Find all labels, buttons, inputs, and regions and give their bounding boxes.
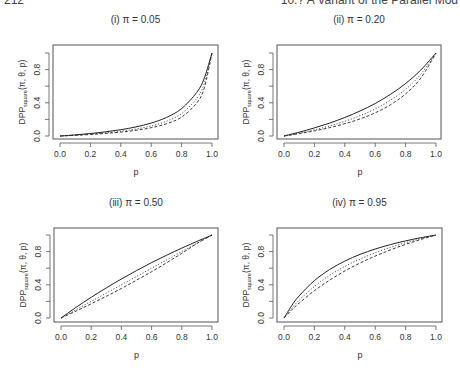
y-axis: 0.00.40.8 — [32, 53, 49, 142]
series-solid-line — [61, 235, 212, 318]
y-tick-label: 0.0 — [256, 312, 266, 324]
y-axis-label: DPPsquare(π, θ, p) — [18, 242, 29, 307]
x-axis: 0.00.20.40.60.81.0 — [54, 143, 218, 159]
x-tick-label: 0.8 — [176, 149, 188, 159]
x-axis: 0.00.20.40.60.81.0 — [55, 326, 218, 342]
x-tick-label: 0.4 — [339, 149, 351, 159]
chart-title: (i) π = 0.05 — [111, 14, 161, 25]
chart-title: (iii) π = 0.50 — [109, 197, 163, 208]
y-axis: 0.00.40.8 — [256, 235, 273, 324]
y-axis-label: DPPsquare(π, θ, p) — [241, 242, 252, 307]
y-tick-label: 0.4 — [32, 97, 42, 109]
x-tick-label: 0.0 — [278, 332, 290, 342]
chart-panel-3: (iii) π = 0.500.00.20.40.60.81.0p0.00.40… — [18, 197, 218, 360]
y-tick-label: 0.4 — [33, 279, 43, 291]
x-axis-label: p — [357, 167, 362, 177]
chart-panel-2: (ii) π = 0.200.00.20.40.60.81.0p0.00.40.… — [241, 14, 442, 177]
y-tick-label: 0.4 — [256, 279, 266, 291]
y-tick-label: 0.8 — [33, 245, 43, 257]
y-tick-label: 0.8 — [256, 63, 266, 75]
chart-panel-4: (iv) π = 0.950.00.20.40.60.81.0p0.00.40.… — [241, 197, 442, 360]
plot-frame — [54, 228, 218, 322]
x-tick-label: 1.0 — [430, 149, 442, 159]
y-tick-label: 0.0 — [256, 130, 266, 142]
x-axis: 0.00.20.40.60.81.0 — [278, 143, 442, 159]
chart-title: (iv) π = 0.95 — [332, 197, 387, 208]
y-axis: 0.00.40.8 — [33, 235, 50, 324]
y-tick-label: 0.8 — [256, 245, 266, 257]
x-axis-label: p — [357, 350, 362, 360]
chart-title: (ii) π = 0.20 — [333, 14, 385, 25]
series-dashed-line — [60, 53, 212, 136]
y-tick-label: 0.8 — [32, 63, 42, 75]
series-dashed-line — [284, 53, 436, 136]
x-axis-label: p — [133, 167, 138, 177]
x-tick-label: 0.4 — [115, 332, 127, 342]
plot-frame — [53, 45, 218, 139]
figure-four-panel-chart: (i) π = 0.050.00.20.40.60.81.0p0.00.40.8… — [0, 0, 460, 374]
y-axis-label: DPPsquare(π, θ, p) — [17, 59, 28, 124]
x-tick-label: 0.4 — [339, 332, 351, 342]
x-tick-label: 1.0 — [430, 332, 442, 342]
x-tick-label: 0.6 — [145, 149, 157, 159]
x-tick-label: 1.0 — [206, 332, 218, 342]
y-axis: 0.00.40.8 — [256, 53, 273, 142]
x-tick-label: 1.0 — [206, 149, 218, 159]
y-tick-label: 0.0 — [33, 312, 43, 324]
series-dotted-line — [284, 53, 436, 136]
chart-panel-1: (i) π = 0.050.00.20.40.60.81.0p0.00.40.8… — [17, 14, 218, 177]
x-tick-label: 0.0 — [55, 332, 67, 342]
x-tick-label: 0.6 — [146, 332, 158, 342]
series-dashed-line — [284, 235, 436, 318]
y-tick-label: 0.0 — [32, 130, 42, 142]
x-tick-label: 0.2 — [308, 149, 320, 159]
x-tick-label: 0.6 — [369, 149, 381, 159]
series-solid-line — [284, 235, 436, 318]
x-tick-label: 0.2 — [308, 332, 320, 342]
series-solid-line — [284, 53, 436, 136]
x-tick-label: 0.8 — [400, 332, 412, 342]
x-tick-label: 0.2 — [84, 149, 96, 159]
x-axis-label: p — [134, 350, 139, 360]
x-tick-label: 0.4 — [115, 149, 127, 159]
x-tick-label: 0.2 — [85, 332, 97, 342]
series-dashed-line — [61, 235, 212, 318]
y-tick-label: 0.4 — [256, 97, 266, 109]
x-tick-label: 0.8 — [400, 149, 412, 159]
x-tick-label: 0.0 — [54, 149, 66, 159]
x-tick-label: 0.8 — [176, 332, 188, 342]
plot-frame — [277, 228, 442, 322]
y-axis-label: DPPsquare(π, θ, p) — [241, 59, 252, 124]
series-dotted-line — [60, 53, 212, 136]
series-dotted-line — [284, 235, 436, 318]
x-tick-label: 0.6 — [369, 332, 381, 342]
x-tick-label: 0.0 — [278, 149, 290, 159]
x-axis: 0.00.20.40.60.81.0 — [278, 326, 442, 342]
series-dotted-line — [61, 235, 212, 318]
series-solid-line — [60, 53, 212, 136]
plot-frame — [277, 45, 441, 139]
